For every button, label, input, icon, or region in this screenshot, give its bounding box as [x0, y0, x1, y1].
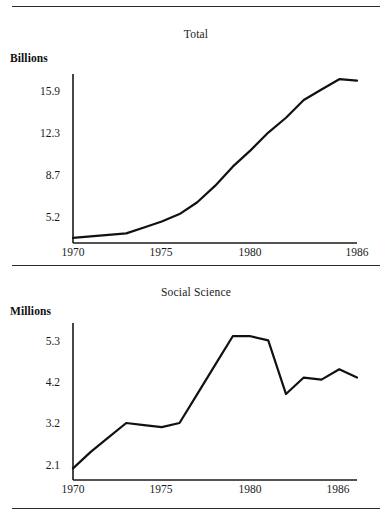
- chart-panel-social-science: Social Science Millions 5.3 4.2 3.2 2.1 …: [0, 265, 392, 508]
- figure-page: Total Billions 15.9 12.3 8.7 5.2 1970 19…: [0, 0, 392, 520]
- x-tick-label-total-3: 1986: [334, 246, 380, 258]
- x-tick-label-total-2: 1980: [227, 246, 273, 258]
- chart-panel-total: Total Billions 15.9 12.3 8.7 5.2 1970 19…: [0, 6, 392, 265]
- line-chart-svg-total: [0, 6, 392, 265]
- x-tick-label-social-1: 1975: [138, 483, 184, 495]
- plot-area-social-science: [0, 265, 392, 508]
- x-tick-label-total-0: 1970: [50, 246, 96, 258]
- line-chart-svg-social-science: [0, 265, 392, 508]
- plot-area-total: [0, 6, 392, 265]
- data-line-total: [73, 79, 357, 238]
- bottom-rule: [12, 508, 380, 509]
- x-tick-label-social-3: 1986: [315, 483, 361, 495]
- x-tick-label-social-2: 1980: [227, 483, 273, 495]
- data-line-social-science: [73, 336, 357, 468]
- x-tick-label-social-0: 1970: [50, 483, 96, 495]
- x-tick-label-total-1: 1975: [138, 246, 184, 258]
